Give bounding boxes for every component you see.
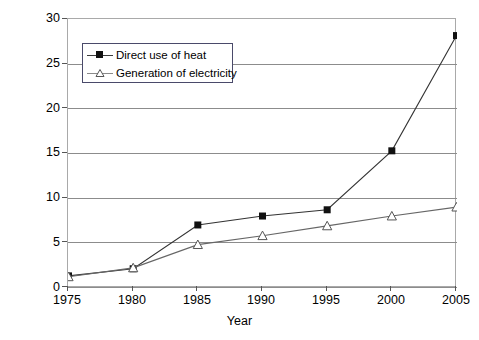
x-tick-label-1990: 1990	[231, 294, 291, 307]
y-tick-label-20: 20	[14, 102, 60, 114]
filled-square-icon	[87, 49, 113, 61]
y-tick-label-5: 5	[14, 236, 60, 248]
legend-item-generation-of-electricity: Generation of electricity	[83, 64, 232, 82]
legend: Direct use of heat Generation of electri…	[82, 43, 233, 83]
gridlines	[68, 64, 457, 287]
x-tick-label-1985: 1985	[167, 294, 227, 307]
x-tick-label-1975: 1975	[37, 294, 97, 307]
legend-item-direct-use-of-heat: Direct use of heat	[83, 46, 232, 64]
y-tick-label-25: 25	[14, 57, 60, 69]
x-axis-title: Year	[0, 314, 479, 328]
chart-figure: Global Geothermal Capacity (GWe or GWth)…	[0, 0, 479, 340]
y-tick-label-10: 10	[14, 191, 60, 203]
open-triangle-icon	[87, 67, 113, 79]
x-tick-label-2000: 2000	[361, 294, 421, 307]
y-tick-label-0: 0	[14, 281, 60, 293]
y-tick-label-15: 15	[14, 146, 60, 158]
x-tick-label-2005: 2005	[426, 294, 479, 307]
x-tick-label-1980: 1980	[102, 294, 162, 307]
legend-item-label: Generation of electricity	[116, 67, 237, 79]
legend-item-label: Direct use of heat	[116, 49, 206, 61]
x-tick-label-1995: 1995	[296, 294, 356, 307]
y-tick-label-30: 30	[14, 12, 60, 24]
